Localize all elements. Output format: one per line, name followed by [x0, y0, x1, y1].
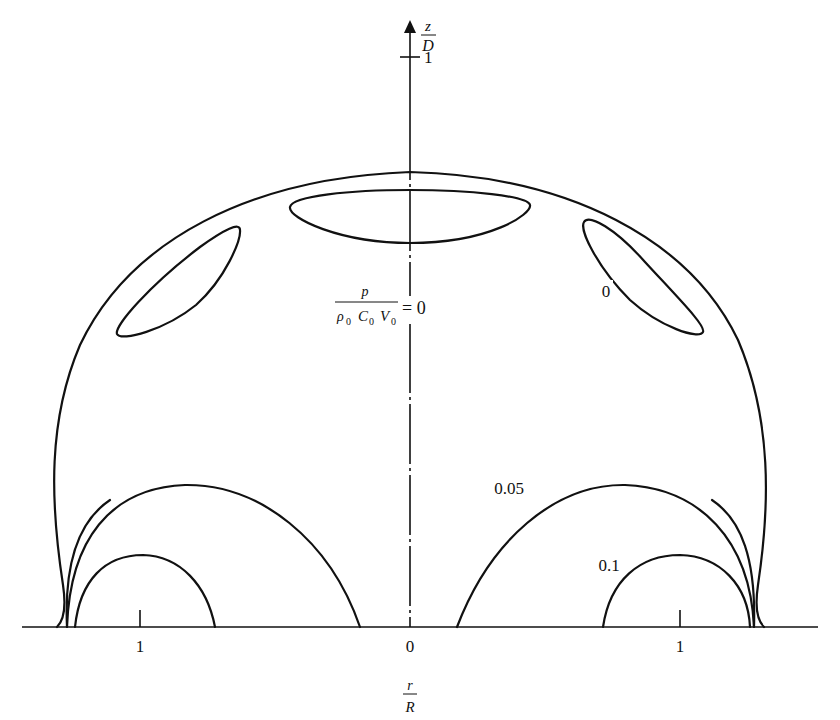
svg-text:0: 0 [602, 282, 611, 301]
contour-005-left [67, 485, 360, 627]
contour-zero-island-right [583, 220, 703, 335]
contour-label-zero: 0 [599, 280, 613, 301]
pressure-level-label: p ρ 0 C 0 V 0 = 0 [330, 268, 450, 344]
pressure-label-c: C [358, 308, 369, 324]
z-axis-tick-label: 1 [424, 48, 433, 67]
pressure-contour-diagram: z D 1 1 0 1 r R p ρ 0 C 0 V 0 = 0 0 0.05… [0, 0, 840, 720]
contour-01-right [603, 555, 750, 627]
svg-text:0.05: 0.05 [494, 479, 524, 498]
z-axis-arrow-icon [404, 20, 416, 33]
contour-label-01: 0.1 [594, 553, 624, 575]
svg-text:0.1: 0.1 [598, 556, 619, 575]
contour-label-005: 0.05 [487, 476, 531, 498]
pressure-label-v-sub: 0 [391, 316, 396, 327]
contour-01-left [75, 555, 215, 627]
r-axis-tick-label-right: 1 [676, 637, 685, 656]
pressure-label-numerator: p [361, 284, 369, 299]
z-axis-label-numerator: z [424, 18, 431, 34]
pressure-label-rho-sub: 0 [346, 316, 351, 327]
r-axis-tick-label-center: 0 [406, 637, 415, 656]
contour-zero-island-left [117, 227, 240, 337]
pressure-label-c-sub: 0 [369, 316, 374, 327]
pressure-label-equals: = 0 [402, 298, 426, 318]
r-axis-tick-label-left: 1 [136, 637, 145, 656]
r-axis-label-numerator: r [407, 678, 413, 693]
r-axis-label-denominator: R [404, 699, 414, 715]
pressure-label-rho: ρ [336, 309, 344, 324]
